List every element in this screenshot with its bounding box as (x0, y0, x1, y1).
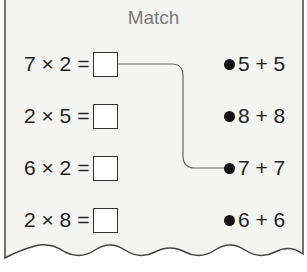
answer-option[interactable]: 8 + 8 (224, 103, 285, 129)
answer-text: 5 + 5 (238, 52, 285, 76)
answer-text: 7 + 7 (238, 156, 285, 180)
answer-option[interactable]: 7 + 7 (224, 155, 285, 181)
bullet-dot-icon (224, 59, 235, 70)
answer-text: 6 + 6 (238, 208, 285, 232)
bullet-dot-icon (224, 111, 235, 122)
match-line[interactable] (118, 64, 226, 168)
answer-text: 8 + 8 (238, 104, 285, 128)
worksheet: Match 7 × 2 = 2 × 5 = 6 × 2 = 2 × 8 = 5 … (0, 0, 307, 272)
answer-option[interactable]: 6 + 6 (224, 207, 285, 233)
bullet-dot-icon (224, 163, 235, 174)
answer-option[interactable]: 5 + 5 (224, 51, 285, 77)
bullet-dot-icon (224, 215, 235, 226)
